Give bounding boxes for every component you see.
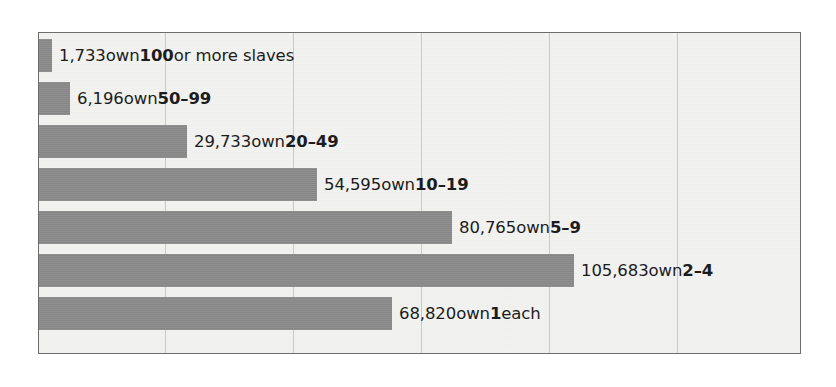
bar-category: 1 bbox=[490, 304, 501, 323]
bar-value-label: 80,765 own 5–9 bbox=[459, 211, 581, 244]
bar-count: 6,196 bbox=[77, 89, 124, 108]
bar bbox=[39, 168, 317, 201]
bar-value-label: 105,683 own 2–4 bbox=[581, 254, 713, 287]
bar bbox=[39, 39, 52, 72]
bar-series: 1,733 own 100 or more slaves6,196 own 50… bbox=[39, 33, 800, 353]
bar-row: 6,196 own 50–99 bbox=[39, 82, 800, 115]
bar-connector-text: own bbox=[106, 46, 140, 65]
bar-connector-text: own bbox=[124, 89, 158, 108]
plot-area: 1,733 own 100 or more slaves6,196 own 50… bbox=[38, 32, 801, 354]
bar-count: 68,820 bbox=[399, 304, 456, 323]
bar-connector-text: own bbox=[381, 175, 415, 194]
bar-count: 29,733 bbox=[194, 132, 251, 151]
bar-category: 2–4 bbox=[682, 261, 713, 280]
bar-count: 54,595 bbox=[324, 175, 381, 194]
bar-value-label: 6,196 own 50–99 bbox=[77, 82, 211, 115]
bar-connector-text: own bbox=[649, 261, 683, 280]
bar-category: 20–49 bbox=[285, 132, 339, 151]
bar-count: 80,765 bbox=[459, 218, 516, 237]
bar-value-label: 1,733 own 100 or more slaves bbox=[59, 39, 294, 72]
bar-connector-text: own bbox=[516, 218, 550, 237]
bar-row: 1,733 own 100 or more slaves bbox=[39, 39, 800, 72]
bar bbox=[39, 82, 70, 115]
bar-category: 50–99 bbox=[158, 89, 212, 108]
bar-value-label: 29,733 own 20–49 bbox=[194, 125, 339, 158]
bar bbox=[39, 297, 392, 330]
bar-row: 68,820 own 1 each bbox=[39, 297, 800, 330]
bar-connector-text: own bbox=[456, 304, 490, 323]
bar-row: 80,765 own 5–9 bbox=[39, 211, 800, 244]
bar-row: 29,733 own 20–49 bbox=[39, 125, 800, 158]
bar-category: 10–19 bbox=[415, 175, 469, 194]
bar-row: 54,595 own 10–19 bbox=[39, 168, 800, 201]
bar-category: 5–9 bbox=[550, 218, 581, 237]
chart-figure: 1,733 own 100 or more slaves6,196 own 50… bbox=[0, 0, 836, 387]
bar bbox=[39, 125, 187, 158]
bar-value-label: 68,820 own 1 each bbox=[399, 297, 541, 330]
bar-connector-text: own bbox=[251, 132, 285, 151]
bar-suffix-text: each bbox=[501, 304, 540, 323]
bar-row: 105,683 own 2–4 bbox=[39, 254, 800, 287]
bar-value-label: 54,595 own 10–19 bbox=[324, 168, 469, 201]
bar bbox=[39, 254, 574, 287]
bar bbox=[39, 211, 452, 244]
bar-category: 100 bbox=[140, 46, 174, 65]
bar-suffix-text: or more slaves bbox=[174, 46, 295, 65]
bar-count: 105,683 bbox=[581, 261, 649, 280]
bar-count: 1,733 bbox=[59, 46, 106, 65]
